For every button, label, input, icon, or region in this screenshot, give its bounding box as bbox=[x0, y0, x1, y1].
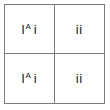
punnett-cell-bottom-left: IAi bbox=[5, 54, 55, 103]
allele-1-superscript-bottom-left: A bbox=[25, 71, 30, 80]
punnett-cell-top-right: ii bbox=[55, 5, 105, 54]
genotype-bottom-left: IAi bbox=[21, 72, 37, 85]
punnett-cell-bottom-right: ii bbox=[55, 54, 105, 103]
allele-2-bottom-left: i bbox=[34, 71, 37, 86]
genotype-top-left: IAi bbox=[21, 23, 37, 36]
allele-2-bottom-right: i bbox=[79, 71, 82, 86]
genotype-top-right: ii bbox=[76, 23, 83, 36]
genotype-bottom-right: ii bbox=[76, 72, 83, 85]
allele-2-top-right: i bbox=[79, 22, 82, 37]
punnett-square-diagram: IAi ii IAi ii bbox=[4, 4, 105, 104]
punnett-square-grid: IAi ii IAi ii bbox=[4, 4, 105, 104]
allele-1-superscript-top-left: A bbox=[25, 21, 30, 30]
allele-2-top-left: i bbox=[34, 22, 37, 37]
punnett-cell-top-left: IAi bbox=[5, 5, 55, 54]
